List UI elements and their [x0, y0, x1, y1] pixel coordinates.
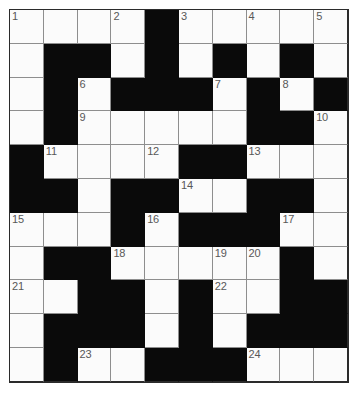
crossword-cell-white[interactable]: [179, 111, 213, 145]
crossword-cell-black: [280, 44, 314, 78]
crossword-cell-white[interactable]: 5: [314, 10, 348, 44]
crossword-cell-white[interactable]: 20: [247, 247, 281, 281]
clue-number: 17: [282, 213, 294, 226]
crossword-cell-white[interactable]: [213, 111, 247, 145]
clue-number: 16: [147, 213, 159, 226]
crossword-cell-black: [179, 145, 213, 179]
crossword-cell-black: [10, 145, 44, 179]
crossword-cell-white[interactable]: [213, 10, 247, 44]
crossword-cell-white[interactable]: 22: [213, 280, 247, 314]
crossword-cell-white[interactable]: 8: [280, 78, 314, 112]
crossword-cell-black: [145, 179, 179, 213]
crossword-cell-black: [179, 213, 213, 247]
crossword-cell-white[interactable]: [280, 145, 314, 179]
crossword-cell-white[interactable]: [78, 179, 112, 213]
crossword-cell-white[interactable]: [314, 348, 348, 382]
crossword-cell-black: [213, 348, 247, 382]
crossword-cell-white[interactable]: 2: [111, 10, 145, 44]
crossword-cell-white[interactable]: 18: [111, 247, 145, 281]
crossword-cell-white[interactable]: [179, 44, 213, 78]
crossword-cell-black: [78, 314, 112, 348]
crossword-cell-white[interactable]: [145, 314, 179, 348]
crossword-cell-black: [314, 280, 348, 314]
crossword-grid: 123456789101112131415161718192021222324: [9, 9, 349, 383]
crossword-cell-black: [111, 314, 145, 348]
crossword-cell-white[interactable]: [44, 280, 78, 314]
crossword-cell-white[interactable]: [10, 348, 44, 382]
crossword-cell-black: [44, 111, 78, 145]
crossword-cell-white[interactable]: [179, 247, 213, 281]
clue-number: 19: [215, 247, 227, 260]
crossword-cell-white[interactable]: [314, 145, 348, 179]
crossword-cell-white[interactable]: [44, 213, 78, 247]
crossword-cell-white[interactable]: 15: [10, 213, 44, 247]
crossword-cell-black: [111, 280, 145, 314]
crossword-cell-white[interactable]: 1: [10, 10, 44, 44]
crossword-cell-black: [145, 10, 179, 44]
crossword-cell-white[interactable]: 11: [44, 145, 78, 179]
crossword-cell-white[interactable]: [280, 348, 314, 382]
crossword-cell-white[interactable]: [10, 314, 44, 348]
crossword-cell-black: [111, 179, 145, 213]
crossword-cell-white[interactable]: [314, 213, 348, 247]
crossword-cell-white[interactable]: 6: [78, 78, 112, 112]
crossword-cell-white[interactable]: [280, 10, 314, 44]
crossword-cell-white[interactable]: [314, 179, 348, 213]
crossword-cell-black: [280, 314, 314, 348]
crossword-cell-black: [247, 111, 281, 145]
crossword-cell-white[interactable]: [78, 10, 112, 44]
crossword-cell-white[interactable]: 17: [280, 213, 314, 247]
crossword-cell-white[interactable]: [10, 44, 44, 78]
crossword-cell-black: [247, 179, 281, 213]
crossword-cell-white[interactable]: 7: [213, 78, 247, 112]
crossword-cell-black: [44, 78, 78, 112]
crossword-cell-white[interactable]: [111, 44, 145, 78]
crossword-cell-black: [314, 314, 348, 348]
crossword-cell-white[interactable]: 24: [247, 348, 281, 382]
crossword-cell-white[interactable]: [111, 348, 145, 382]
crossword-cell-black: [111, 213, 145, 247]
crossword-cell-white[interactable]: 21: [10, 280, 44, 314]
crossword-cell-black: [179, 348, 213, 382]
clue-number: 1: [12, 10, 18, 23]
crossword-cell-white[interactable]: [213, 179, 247, 213]
crossword-cell-white[interactable]: 13: [247, 145, 281, 179]
crossword-cell-white[interactable]: 16: [145, 213, 179, 247]
crossword-cell-white[interactable]: [10, 247, 44, 281]
crossword-cell-white[interactable]: [78, 145, 112, 179]
crossword-cell-white[interactable]: [247, 44, 281, 78]
crossword-cell-white[interactable]: 4: [247, 10, 281, 44]
crossword-cell-black: [78, 44, 112, 78]
crossword-cell-white[interactable]: 3: [179, 10, 213, 44]
crossword-cell-white[interactable]: [10, 78, 44, 112]
crossword-cell-black: [179, 314, 213, 348]
crossword-cell-white[interactable]: [213, 314, 247, 348]
crossword-cell-white[interactable]: [10, 111, 44, 145]
crossword-cell-white[interactable]: [145, 111, 179, 145]
crossword-cell-black: [179, 280, 213, 314]
crossword-cell-white[interactable]: 12: [145, 145, 179, 179]
crossword-cell-black: [44, 348, 78, 382]
crossword-cell-white[interactable]: [145, 280, 179, 314]
crossword-cell-white[interactable]: [44, 10, 78, 44]
crossword-cell-white[interactable]: 10: [314, 111, 348, 145]
crossword-cell-white[interactable]: [247, 280, 281, 314]
crossword-cell-white[interactable]: [78, 213, 112, 247]
crossword-cell-white[interactable]: [314, 247, 348, 281]
crossword-cell-white[interactable]: 23: [78, 348, 112, 382]
crossword-cell-black: [145, 44, 179, 78]
crossword-cell-black: [247, 314, 281, 348]
crossword-cell-white[interactable]: 14: [179, 179, 213, 213]
clue-number: 20: [249, 247, 261, 260]
crossword-cell-white[interactable]: [111, 111, 145, 145]
crossword-cell-white[interactable]: [111, 145, 145, 179]
crossword-cell-white[interactable]: 19: [213, 247, 247, 281]
crossword-cell-black: [44, 247, 78, 281]
clue-number: 2: [113, 10, 119, 23]
crossword-cell-white[interactable]: [314, 44, 348, 78]
crossword-cell-black: [280, 247, 314, 281]
clue-number: 21: [12, 280, 24, 293]
clue-number: 11: [46, 145, 57, 158]
crossword-cell-white[interactable]: 9: [78, 111, 112, 145]
crossword-cell-white[interactable]: [145, 247, 179, 281]
